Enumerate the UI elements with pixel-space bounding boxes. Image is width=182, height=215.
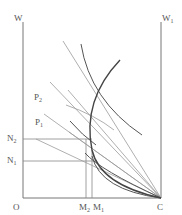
price-ray-2 [50,82,161,198]
origin-label: O [13,202,20,212]
p2-label: P2 [34,92,42,103]
w1-axis-label: W1 [162,13,174,24]
corner-label: C [157,202,163,212]
contract-curve [90,60,161,198]
price-ray-5 [69,132,161,198]
indifference-curve-n2 [70,121,96,145]
indifference-curve-n1 [85,153,161,198]
w-axis-label: W [14,13,23,23]
n2-label: N2 [7,133,17,144]
m1-label: M1 [93,202,104,213]
m2-label: M2 [79,202,90,213]
edgeworth-box-diagram: W W1 P2 P1 N2 N1 O M2 M1 C [0,0,182,215]
n1-label: N1 [7,155,17,166]
p1-label: P1 [35,117,43,128]
price-ray-3 [68,90,161,198]
